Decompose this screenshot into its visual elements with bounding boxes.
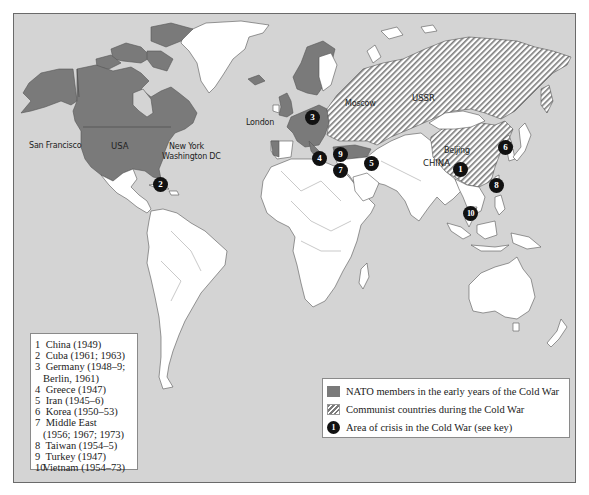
legend-row-communist: Communist countries during the Cold War — [327, 400, 569, 418]
crisis-key: 1 China (1949) 2 Cuba (1961; 1963) 3 Ger… — [30, 333, 138, 470]
south-america — [147, 209, 227, 389]
japan — [513, 123, 531, 161]
crisis-marker-4: 4 — [312, 151, 327, 166]
australia — [469, 257, 535, 319]
crisis-marker-9: 9 — [333, 147, 348, 162]
legend-row-nato: NATO members in the early years of the C… — [327, 382, 569, 400]
city-label-london: London — [246, 118, 274, 127]
country-label-ussr: USSR — [412, 93, 435, 103]
crisis-marker-10: 10 — [463, 206, 478, 221]
legend-row-crisis: 1 Area of crisis in the Cold War (see ke… — [327, 418, 569, 436]
key-item: 5 Iran (1945–6) — [35, 395, 137, 406]
key-item-continuation: (1956; 1967; 1973) — [35, 429, 137, 440]
city-label-beijing: Beijing — [444, 146, 470, 155]
crisis-marker-7: 7 — [333, 163, 348, 178]
hatch-swatch-icon — [327, 404, 340, 415]
key-item: 10Vietnam (1954–73) — [35, 462, 137, 473]
city-label-moscow: Moscow — [345, 99, 376, 108]
map-legend: NATO members in the early years of the C… — [322, 378, 570, 438]
country-label-china: CHINA — [423, 158, 450, 168]
key-item: 8 Taiwan (1954–5) — [35, 440, 137, 451]
crisis-marker-5: 5 — [364, 156, 379, 171]
key-item: 6 Korea (1950–53) — [35, 406, 137, 417]
key-item: 1 China (1949) — [35, 339, 137, 350]
city-label-washington: Washington DC — [162, 152, 221, 161]
key-item: 3 Germany (1948–9; — [35, 361, 137, 372]
country-label-usa: USA — [111, 141, 129, 151]
legend-label-crisis: Area of crisis in the Cold War (see key) — [346, 422, 512, 433]
uk — [279, 93, 293, 117]
key-item-continuation: Berlin, 1961) — [35, 373, 137, 384]
north-america-nato — [73, 65, 197, 181]
alaska — [21, 69, 77, 113]
city-label-san-francisco: San Francisco — [29, 141, 81, 150]
crisis-marker-8: 8 — [489, 178, 504, 193]
city-label-new-york: New York — [169, 142, 204, 151]
key-item: 4 Greece (1947) — [35, 384, 137, 395]
crisis-dot-icon: 1 — [327, 421, 340, 434]
legend-label-communist: Communist countries during the Cold War — [346, 404, 524, 415]
crisis-marker-3: 3 — [305, 110, 320, 125]
nato-swatch-icon — [327, 386, 340, 397]
key-item: 7 Middle East — [35, 417, 137, 428]
legend-label-nato: NATO members in the early years of the C… — [346, 386, 559, 397]
key-item: 2 Cuba (1961; 1963) — [35, 350, 137, 361]
crisis-marker-2: 2 — [153, 177, 168, 192]
key-item: 9 Turkey (1947) — [35, 451, 137, 462]
crisis-marker-1: 1 — [453, 162, 468, 177]
crisis-marker-6: 6 — [498, 140, 513, 155]
